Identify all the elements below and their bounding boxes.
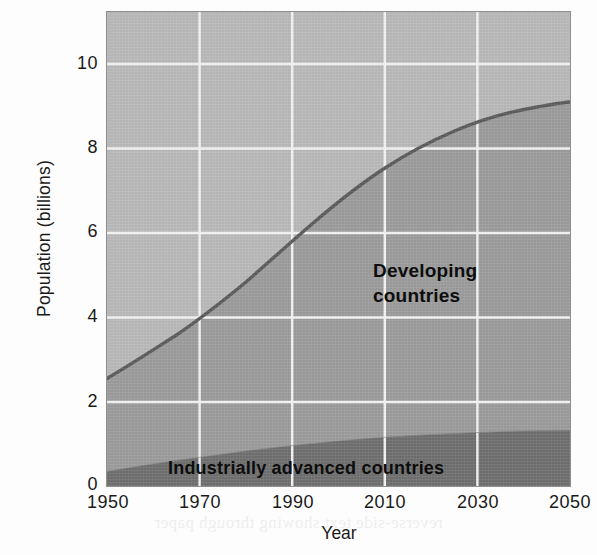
x-tick-2050: 2050 — [535, 492, 597, 513]
x-tick-1970: 1970 — [165, 492, 235, 513]
population-projection-chart: reverse-side text showing through paper … — [0, 0, 597, 555]
x-axis-title: Year — [108, 523, 570, 544]
x-tick-1990: 1990 — [258, 492, 328, 513]
x-tick-2030: 2030 — [443, 492, 513, 513]
x-axis-tick-labels: 1950 1970 1990 2010 2030 2050 — [0, 0, 597, 555]
x-tick-1950: 1950 — [73, 492, 143, 513]
x-tick-2010: 2010 — [350, 492, 420, 513]
